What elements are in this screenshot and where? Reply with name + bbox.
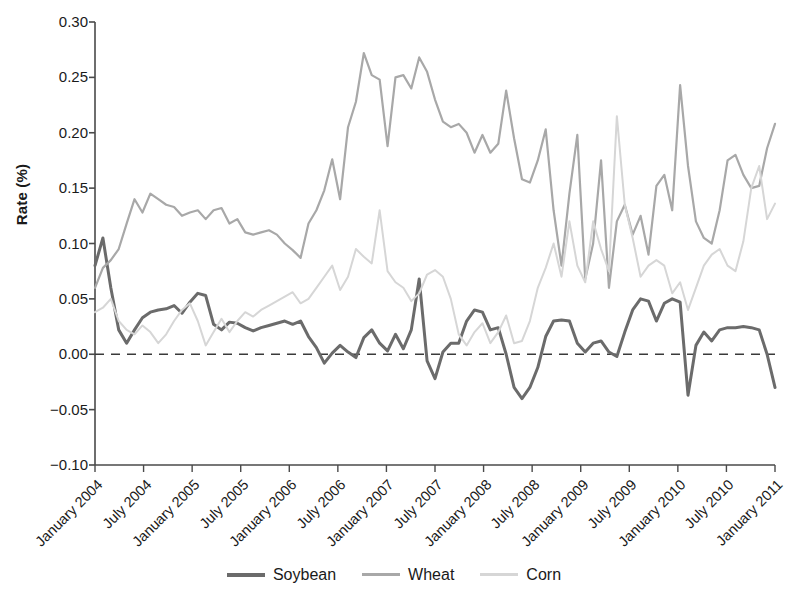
chart-figure: Rate (%) 0.300.250.200.150.100.050.00−0.… (0, 0, 788, 604)
plot-area (0, 0, 788, 604)
legend-item-wheat[interactable]: Wheat (362, 566, 454, 583)
legend-label: Soybean (273, 566, 336, 583)
series-line-wheat (95, 53, 775, 288)
chart-legend: SoybeanWheatCorn (0, 566, 788, 583)
legend-label: Wheat (408, 566, 454, 583)
legend-swatch-wheat (362, 573, 400, 576)
x-axis-tick-marks (95, 465, 775, 472)
data-series-group (95, 53, 775, 399)
legend-swatch-corn (480, 573, 518, 576)
series-line-corn (95, 116, 775, 345)
axis-lines (95, 22, 775, 465)
legend-item-soybean[interactable]: Soybean (227, 566, 336, 583)
legend-item-corn[interactable]: Corn (480, 566, 561, 583)
legend-label: Corn (526, 566, 561, 583)
legend-swatch-soybean (227, 573, 265, 577)
y-axis-tick-marks (89, 22, 95, 465)
